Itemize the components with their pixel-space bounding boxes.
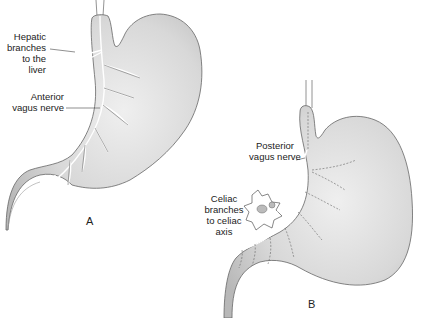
- label-line: axis: [202, 226, 246, 237]
- label-line: Hepatic: [2, 31, 46, 42]
- label-line: branches: [2, 42, 46, 53]
- panel-letter-a: A: [86, 215, 93, 227]
- label-anterior-vagus-nerve: Anterior vagus nerve: [8, 91, 64, 113]
- hepatic-leader: [50, 49, 75, 52]
- label-posterior-vagus-nerve: Posterior vagus nerve: [245, 140, 305, 162]
- label-line: vagus nerve: [245, 151, 305, 162]
- label-line: to celiac: [202, 215, 246, 226]
- label-line: branches: [202, 204, 246, 215]
- panel-letter-b: B: [308, 298, 315, 310]
- label-line: to the: [2, 53, 46, 64]
- label-line: liver: [2, 64, 46, 75]
- label-line: Anterior: [8, 91, 64, 102]
- label-line: Posterior: [245, 140, 305, 151]
- celiac-ganglion: [244, 190, 282, 230]
- label-celiac-branches: Celiac branches to celiac axis: [202, 193, 246, 237]
- label-line: Celiac: [202, 193, 246, 204]
- label-hepatic-branches: Hepatic branches to the liver: [2, 31, 46, 75]
- label-line: vagus nerve: [8, 102, 64, 113]
- stomach-vagus-illustration: [0, 0, 421, 318]
